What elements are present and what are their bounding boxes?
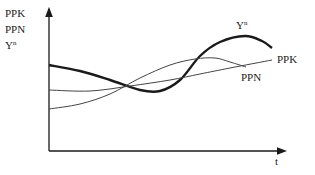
y-axis-label-ppk: PPK: [5, 7, 25, 19]
curve-label-yn: Yn: [236, 19, 247, 31]
chart-canvas: [0, 0, 315, 175]
y-axis-label-yn-sup: n: [13, 39, 17, 47]
curve-label-yn-sup: n: [244, 19, 248, 27]
y-axis-label-yn: Yn: [5, 39, 16, 51]
y-axis-label-yn-base: Y: [5, 39, 13, 51]
curve-yn: [49, 36, 272, 92]
curve-label-ppn: PPN: [241, 71, 261, 83]
x-axis-label: t: [275, 155, 278, 167]
curve-label-ppk: PPK: [277, 53, 297, 65]
curve-label-yn-base: Y: [236, 19, 244, 31]
y-axis-label-ppn: PPN: [5, 23, 25, 35]
